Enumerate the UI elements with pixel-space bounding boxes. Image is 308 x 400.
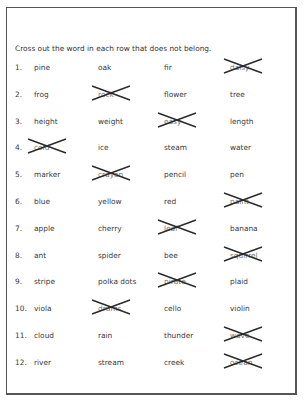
word-text: yellow xyxy=(98,197,122,206)
word[interactable]: apple xyxy=(34,224,55,233)
word-row: 10.violadrumscelloviolin xyxy=(7,304,295,318)
word-row: 7.applecherryleafbanana xyxy=(7,224,295,238)
word-text: pirate xyxy=(164,277,186,286)
row-number: 6. xyxy=(15,197,22,206)
word[interactable]: plaid xyxy=(230,277,248,286)
word[interactable]: weight xyxy=(98,117,123,126)
row-number: 8. xyxy=(15,251,22,260)
word-text: length xyxy=(230,117,254,126)
crossed-out-word[interactable]: pirate xyxy=(164,277,186,286)
word[interactable]: pencil xyxy=(164,170,186,179)
word[interactable]: ant xyxy=(34,251,46,260)
word-row: 3.heightweighteasylength xyxy=(7,117,295,131)
word[interactable]: red xyxy=(164,197,176,206)
word[interactable]: ice xyxy=(98,143,109,152)
word-text: cold xyxy=(34,143,49,152)
word-text: spider xyxy=(98,251,121,260)
word-text: ant xyxy=(34,251,46,260)
word-text: water xyxy=(230,143,251,152)
word-text: height xyxy=(34,117,58,126)
crossed-out-word[interactable]: rock xyxy=(98,90,114,99)
word-text: red xyxy=(164,197,176,206)
word[interactable]: yellow xyxy=(98,197,122,206)
word-row: 9.stripepolka dotspirateplaid xyxy=(7,277,295,291)
word[interactable]: cherry xyxy=(98,224,122,233)
word-text: steam xyxy=(164,143,187,152)
word[interactable]: cello xyxy=(164,304,181,313)
row-number: 9. xyxy=(15,277,22,286)
crossed-out-word[interactable]: wave xyxy=(230,331,250,340)
word[interactable]: blue xyxy=(34,197,50,206)
word[interactable]: frog xyxy=(34,90,49,99)
word[interactable]: banana xyxy=(230,224,258,233)
word[interactable]: pen xyxy=(230,170,244,179)
word[interactable]: viola xyxy=(34,304,52,313)
word-text: plaid xyxy=(230,277,248,286)
word[interactable]: marker xyxy=(34,170,60,179)
row-number: 1. xyxy=(15,63,22,72)
word-text: cherry xyxy=(98,224,122,233)
word[interactable]: flower xyxy=(164,90,187,99)
word[interactable]: river xyxy=(34,358,51,367)
word[interactable]: tree xyxy=(230,90,245,99)
word-row: 1.pineoakfirdaisy xyxy=(7,63,295,77)
word-text: marker xyxy=(34,170,60,179)
crossed-out-word[interactable]: crayon xyxy=(98,170,123,179)
word[interactable]: water xyxy=(230,143,251,152)
word-text: banana xyxy=(230,224,258,233)
word[interactable]: length xyxy=(230,117,254,126)
word-text: daisy xyxy=(230,63,250,72)
word[interactable]: fir xyxy=(164,63,172,72)
crossed-out-word[interactable]: daisy xyxy=(230,63,250,72)
word-text: viola xyxy=(34,304,52,313)
word[interactable]: thunder xyxy=(164,331,193,340)
crossed-out-word[interactable]: leaf xyxy=(164,224,178,233)
word[interactable]: oak xyxy=(98,63,111,72)
word-row: 5.markercrayonpencilpen xyxy=(7,170,295,184)
word-text: leaf xyxy=(164,224,178,233)
word-row: 11.cloudrainthunderwave xyxy=(7,331,295,345)
word[interactable]: creek xyxy=(164,358,184,367)
word[interactable]: pine xyxy=(34,63,50,72)
row-number: 10. xyxy=(15,304,27,313)
word[interactable]: violin xyxy=(230,304,250,313)
word[interactable]: spider xyxy=(98,251,121,260)
word[interactable]: bee xyxy=(164,251,178,260)
word-text: cello xyxy=(164,304,181,313)
word-text: pencil xyxy=(164,170,186,179)
word[interactable]: stream xyxy=(98,358,124,367)
word-text: ocean xyxy=(230,358,252,367)
row-number: 12. xyxy=(15,358,27,367)
word-text: blue xyxy=(34,197,50,206)
word[interactable]: rain xyxy=(98,331,112,340)
crossed-out-word[interactable]: easy xyxy=(164,117,181,126)
worksheet: Cross out the word in each row that does… xyxy=(6,7,297,395)
word-text: frog xyxy=(34,90,49,99)
row-number: 7. xyxy=(15,224,22,233)
word-text: creek xyxy=(164,358,184,367)
word[interactable]: stripe xyxy=(34,277,55,286)
word-text: paint xyxy=(230,197,249,206)
crossed-out-word[interactable]: cold xyxy=(34,143,49,152)
word[interactable]: steam xyxy=(164,143,187,152)
word-text: tree xyxy=(230,90,245,99)
row-number: 11. xyxy=(15,331,27,340)
row-number: 3. xyxy=(15,117,22,126)
word-text: bee xyxy=(164,251,178,260)
word-text: stripe xyxy=(34,277,55,286)
word[interactable]: polka dots xyxy=(98,277,136,286)
crossed-out-word[interactable]: paint xyxy=(230,197,249,206)
word-text: violin xyxy=(230,304,250,313)
word-text: ice xyxy=(98,143,109,152)
word[interactable]: height xyxy=(34,117,58,126)
crossed-out-word[interactable]: drums xyxy=(98,304,121,313)
word-text: cloud xyxy=(34,331,54,340)
word-text: easy xyxy=(164,117,181,126)
word-row: 2.frogrockflowertree xyxy=(7,90,295,104)
word-text: crayon xyxy=(98,170,123,179)
word-text: pine xyxy=(34,63,50,72)
word[interactable]: cloud xyxy=(34,331,54,340)
word-text: oak xyxy=(98,63,111,72)
crossed-out-word[interactable]: ocean xyxy=(230,358,252,367)
crossed-out-word[interactable]: squirrel xyxy=(230,251,258,260)
